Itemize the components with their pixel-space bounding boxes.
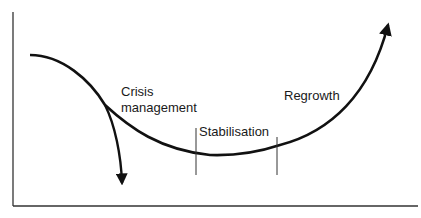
stabilisation-label: Stabilisation: [199, 124, 269, 139]
curve-diagram: [0, 0, 421, 218]
crisis-label-line2: management: [121, 100, 197, 115]
crisis-label-line1: Crisis: [121, 84, 154, 99]
diagram-canvas: Crisis management Stabilisation Regrowth: [0, 0, 421, 218]
regrowth-label: Regrowth: [284, 88, 340, 103]
